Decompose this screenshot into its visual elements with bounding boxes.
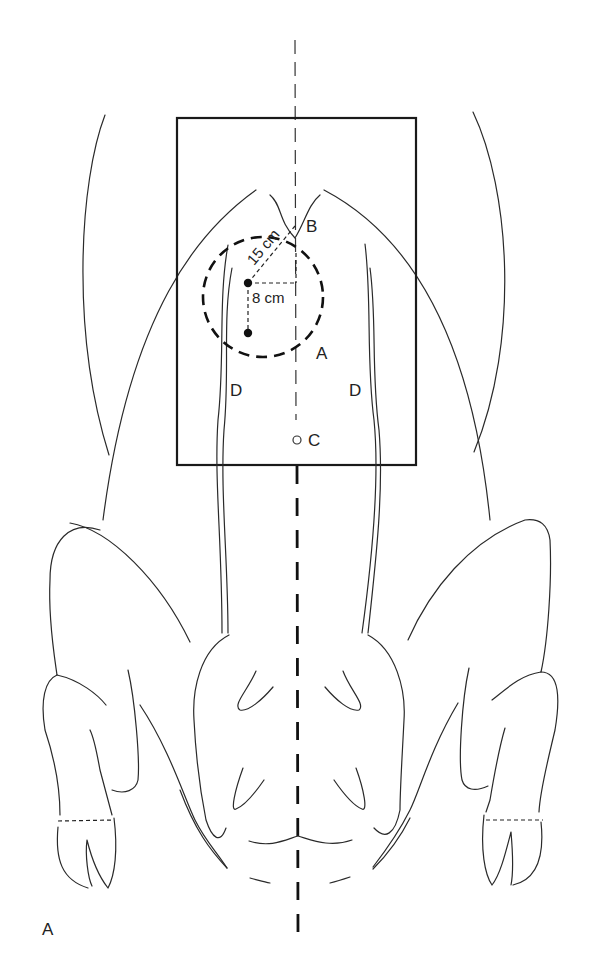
teat-upper-right: [325, 671, 361, 710]
left-leg-fold: [140, 705, 227, 868]
midline-upper: [295, 40, 296, 420]
belly-dash-left: [250, 878, 270, 883]
left-leg-inner: [112, 670, 138, 792]
point-upper: [244, 279, 252, 287]
udder-right: [368, 635, 404, 834]
left-thigh: [50, 527, 100, 675]
udder-left: [194, 635, 229, 838]
body-outline-left: [103, 190, 256, 520]
left-leg-upper: [43, 675, 60, 815]
body-outline-right: [324, 190, 490, 520]
teat-lower-right: [334, 768, 365, 809]
right-leg-upper: [539, 672, 558, 812]
label-b: B: [306, 217, 317, 236]
udder-bottom-curve: [249, 836, 352, 844]
point-c-marker: [293, 436, 301, 444]
belly-curve-right: [373, 818, 410, 869]
label-d-left: D: [230, 381, 242, 400]
label-a: A: [316, 344, 328, 363]
teat-lower-left: [233, 768, 264, 809]
right-thigh: [408, 520, 551, 672]
label-c: C: [308, 431, 320, 450]
left-thigh-inner: [70, 523, 190, 642]
outer-arc-right: [473, 112, 505, 452]
label-15cm: 15 cm: [243, 226, 282, 268]
right-leg-fold: [373, 703, 458, 867]
milk-vein-right-b: [368, 268, 381, 633]
label-8cm: 8 cm: [252, 289, 285, 306]
right-hoof: [483, 815, 542, 885]
label-d-right: D: [349, 381, 361, 400]
right-leg-inner: [460, 668, 488, 789]
left-hoof: [57, 818, 115, 888]
right-leg-hock: [492, 672, 541, 700]
belly-dash-right: [330, 877, 350, 883]
left-leg-hock: [57, 675, 106, 705]
left-leg-front: [90, 730, 112, 815]
left-hoof-coronet: [58, 820, 114, 821]
point-lower: [244, 329, 252, 337]
outer-arc-left: [83, 115, 109, 455]
milk-vein-left-b: [223, 268, 232, 633]
teat-upper-left: [238, 671, 273, 710]
right-leg-front: [486, 728, 505, 812]
panel-label: A: [42, 920, 54, 939]
anatomical-diagram: B A C D D 15 cm 8 cm A: [0, 0, 596, 968]
midline-lower: [297, 466, 298, 934]
field-rectangle: [177, 118, 416, 465]
